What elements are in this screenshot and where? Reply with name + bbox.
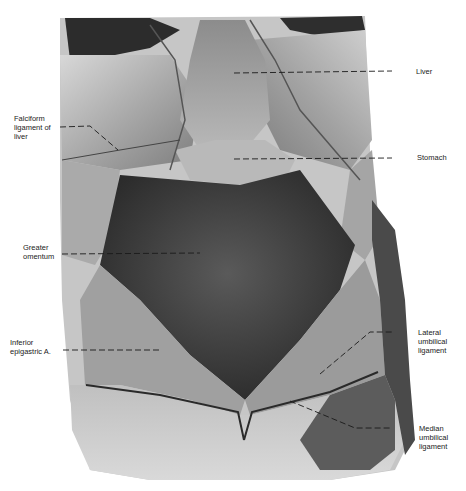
label-falciform-ligament: Falciform ligament of liver [14, 114, 51, 141]
label-liver: Liver [416, 67, 432, 76]
anatomy-figure: Falciform ligament of liver Greater omen… [0, 0, 466, 491]
label-inferior-epigastric-artery: Inferior epigastric A. [10, 338, 51, 356]
label-greater-omentum: Greater omentum [23, 243, 54, 261]
label-lateral-umbilical-ligament: Lateral umbilical ligament [418, 328, 447, 355]
label-median-umbilical-ligament: Median umbilical ligament [419, 424, 448, 451]
label-stomach: Stomach [417, 153, 447, 162]
abdominal-dissection-image [0, 0, 466, 491]
